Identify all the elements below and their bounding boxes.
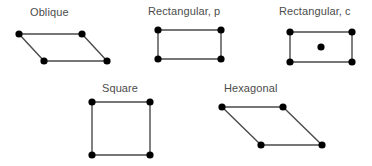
lattice-node-vertex-top-right — [217, 26, 224, 33]
lattice-cell-square — [88, 98, 153, 158]
lattice-node-center-node — [317, 43, 324, 50]
lattice-figure: ObliqueRectangular, pRectangular, cSquar… — [0, 0, 372, 166]
lattice-node-vertex-bottom-left — [286, 58, 293, 65]
lattice-node-vertex-top-left — [154, 26, 161, 33]
lattice-edge — [222, 107, 261, 145]
lattice-node-vertex-top-left — [88, 98, 95, 105]
lattice-diagram-canvas — [0, 0, 372, 166]
lattice-label-oblique: Oblique — [30, 6, 69, 19]
lattice-node-vertex-top-right — [146, 98, 153, 105]
lattice-node-vertex-bottom-left — [40, 57, 47, 64]
lattice-label-hexagonal: Hexagonal — [224, 82, 278, 95]
lattice-node-vertex-top-left — [286, 28, 293, 35]
lattice-node-vertex-top-right — [348, 28, 355, 35]
lattice-edge — [283, 107, 322, 145]
lattice-node-vertex-bottom-right — [103, 57, 110, 64]
lattice-label-square: Square — [102, 82, 138, 95]
lattice-cells-layer — [15, 26, 355, 158]
lattice-node-vertex-top-left — [15, 30, 22, 37]
lattice-cell-hexagonal — [218, 103, 325, 148]
lattice-node-vertex-top-right — [78, 30, 85, 37]
lattice-node-vertex-bottom-left — [257, 141, 264, 148]
lattice-node-vertex-bottom-right — [348, 58, 355, 65]
lattice-edge — [82, 34, 107, 61]
lattice-cell-oblique — [15, 30, 110, 64]
lattice-node-vertex-bottom-right — [318, 141, 325, 148]
lattice-node-vertex-bottom-right — [146, 151, 153, 158]
lattice-cell-rectangular-p — [154, 26, 224, 62]
lattice-node-vertex-top-left — [218, 103, 225, 110]
lattice-label-rectangular-p: Rectangular, p — [148, 5, 220, 18]
lattice-label-rectangular-c: Rectangular, c — [279, 5, 351, 18]
lattice-node-vertex-bottom-left — [88, 151, 95, 158]
lattice-node-vertex-bottom-right — [217, 55, 224, 62]
lattice-edge — [19, 34, 44, 61]
lattice-node-vertex-top-right — [279, 103, 286, 110]
lattice-node-vertex-bottom-left — [154, 55, 161, 62]
lattice-cell-rectangular-c — [286, 28, 355, 65]
